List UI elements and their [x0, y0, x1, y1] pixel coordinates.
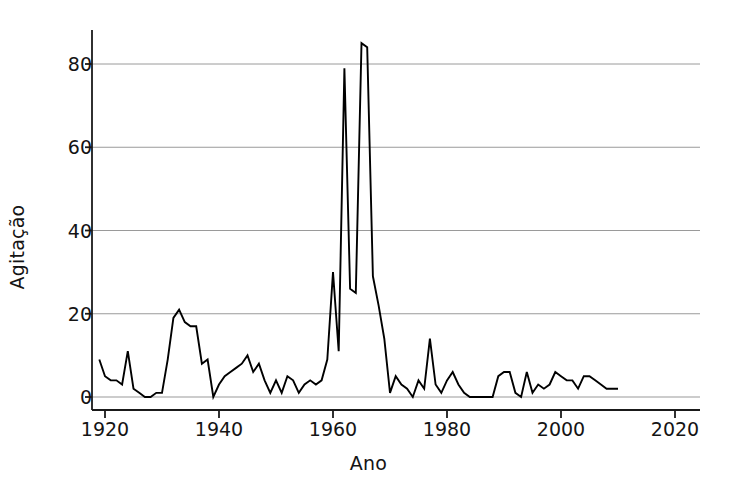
y-tick-label-60: 60 [46, 136, 92, 158]
y-tick-label-80: 80 [46, 53, 92, 75]
tick-marks [85, 64, 675, 418]
y-tick-label-20: 20 [46, 303, 92, 325]
x-tick-label-1980: 1980 [423, 418, 471, 440]
x-tick-label-1940: 1940 [195, 418, 243, 440]
data-line-agitacao [99, 43, 618, 397]
gridlines [92, 64, 700, 397]
x-axis-label: Ano [0, 452, 737, 474]
y-tick-label-40: 40 [46, 220, 92, 242]
x-tick-label-1920: 1920 [81, 418, 129, 440]
y-tick-labels: 0 20 40 60 80 [0, 0, 92, 494]
y-tick-label-0: 0 [46, 386, 92, 408]
x-tick-label-2000: 2000 [537, 418, 585, 440]
x-tick-label-2020: 2020 [651, 418, 699, 440]
axis-lines [92, 30, 700, 410]
chart-figure: Agitação Ano 0 20 40 60 80 1920 1940 196… [0, 0, 737, 494]
x-tick-label-1960: 1960 [309, 418, 357, 440]
